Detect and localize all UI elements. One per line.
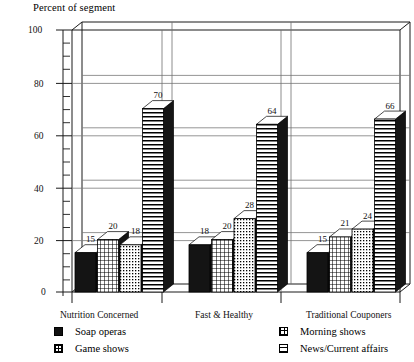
- dotted-square-swatch-icon: [279, 327, 288, 336]
- bar-value-label: 18: [131, 226, 141, 236]
- bar-front-face: [98, 240, 119, 292]
- ytick-label-20: 20: [34, 236, 44, 246]
- horizontal-lines-square-swatch-icon: [279, 344, 288, 353]
- ytick-label-100: 100: [28, 25, 43, 35]
- bar-value-label: 15: [86, 234, 96, 244]
- legend-item-game-shows: Game shows: [54, 341, 129, 356]
- x-axis-labels: Nutrition Concerned Fast & Healthy Tradi…: [60, 310, 392, 320]
- bar-front-face: [75, 253, 96, 292]
- legend-label-news-current-affairs: News/Current affairs: [300, 343, 388, 354]
- chart-container: Percent of segment: [0, 0, 414, 362]
- bar-front-face: [212, 240, 233, 292]
- bars-layer: 152018701820286415212466: [75, 90, 406, 292]
- bar-value-label: 15: [318, 234, 328, 244]
- bar-chart-plot: 100 80 60 40 20 0 1520187018202864152124…: [0, 0, 414, 362]
- bar-front-face: [330, 237, 351, 292]
- bar-front-face: [375, 119, 396, 292]
- crosshatch-square-swatch-icon: [54, 344, 63, 353]
- bar-3-4: 66: [375, 101, 406, 292]
- x-axis-ticks: [72, 292, 400, 303]
- ytick-label-80: 80: [34, 79, 44, 89]
- chart-legend: Soap operas Game shows Morning shows New…: [0, 324, 414, 362]
- legend-item-morning-shows: Morning shows: [279, 324, 388, 339]
- category-label-0: Nutrition Concerned: [60, 310, 139, 320]
- solid-square-swatch-icon: [54, 327, 63, 336]
- bar-front-face: [307, 253, 328, 292]
- bar-value-label: 20: [109, 221, 119, 231]
- ytick-label-40: 40: [34, 184, 44, 194]
- legend-column-left: Soap operas Game shows: [54, 324, 129, 358]
- bar-value-label: 20: [223, 221, 233, 231]
- bar-2-4: 64: [257, 106, 288, 292]
- bar-value-label: 70: [154, 90, 164, 100]
- category-label-1: Fast & Healthy: [195, 310, 253, 320]
- legend-column-right: Morning shows News/Current affairs: [279, 324, 388, 358]
- bar-front-face: [189, 245, 210, 292]
- legend-item-news-current-affairs: News/Current affairs: [279, 341, 388, 356]
- bar-value-label: 24: [363, 211, 373, 221]
- bar-value-label: 28: [245, 200, 255, 210]
- category-label-2: Traditional Couponers: [306, 310, 392, 320]
- bar-side-face: [396, 111, 406, 292]
- bar-side-face: [164, 101, 174, 292]
- legend-label-game-shows: Game shows: [75, 343, 129, 354]
- legend-label-morning-shows: Morning shows: [300, 326, 366, 337]
- bar-value-label: 64: [268, 106, 278, 116]
- ytick-label-0: 0: [41, 287, 46, 297]
- ytick-label-60: 60: [34, 131, 44, 141]
- bar-value-label: 66: [386, 101, 396, 111]
- bar-front-face: [120, 245, 141, 292]
- bar-front-face: [257, 124, 278, 292]
- legend-item-soap-operas: Soap operas: [54, 324, 129, 339]
- bar-1-4: 70: [143, 90, 174, 292]
- y-axis: 100 80 60 40 20 0: [28, 25, 72, 297]
- bar-value-label: 18: [200, 226, 210, 236]
- bar-side-face: [278, 116, 288, 292]
- bar-value-label: 21: [341, 218, 350, 228]
- legend-label-soap-operas: Soap operas: [75, 326, 126, 337]
- bar-front-face: [234, 219, 255, 292]
- bar-front-face: [143, 109, 164, 292]
- bar-front-face: [352, 229, 373, 292]
